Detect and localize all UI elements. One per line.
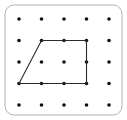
peg-dot[interactable] — [85, 103, 89, 107]
geoboard-canvas — [0, 0, 127, 120]
peg-dot[interactable] — [17, 103, 21, 107]
board-frame — [5, 5, 122, 115]
peg-dot[interactable] — [17, 60, 21, 64]
peg-dot[interactable] — [62, 17, 66, 21]
peg-dot[interactable] — [17, 17, 21, 21]
peg-dot[interactable] — [107, 82, 111, 86]
peg-dot[interactable] — [40, 17, 44, 21]
peg-dot[interactable] — [40, 60, 44, 64]
geoboard-figure — [0, 0, 127, 120]
peg-dot[interactable] — [40, 103, 44, 107]
peg-dot[interactable] — [62, 60, 66, 64]
peg-dot[interactable] — [107, 60, 111, 64]
peg-dot[interactable] — [107, 103, 111, 107]
peg-dot[interactable] — [62, 103, 66, 107]
peg-dot[interactable] — [17, 39, 21, 43]
peg-dot[interactable] — [107, 17, 111, 21]
peg-dot[interactable] — [107, 39, 111, 43]
peg-dot[interactable] — [85, 17, 89, 21]
